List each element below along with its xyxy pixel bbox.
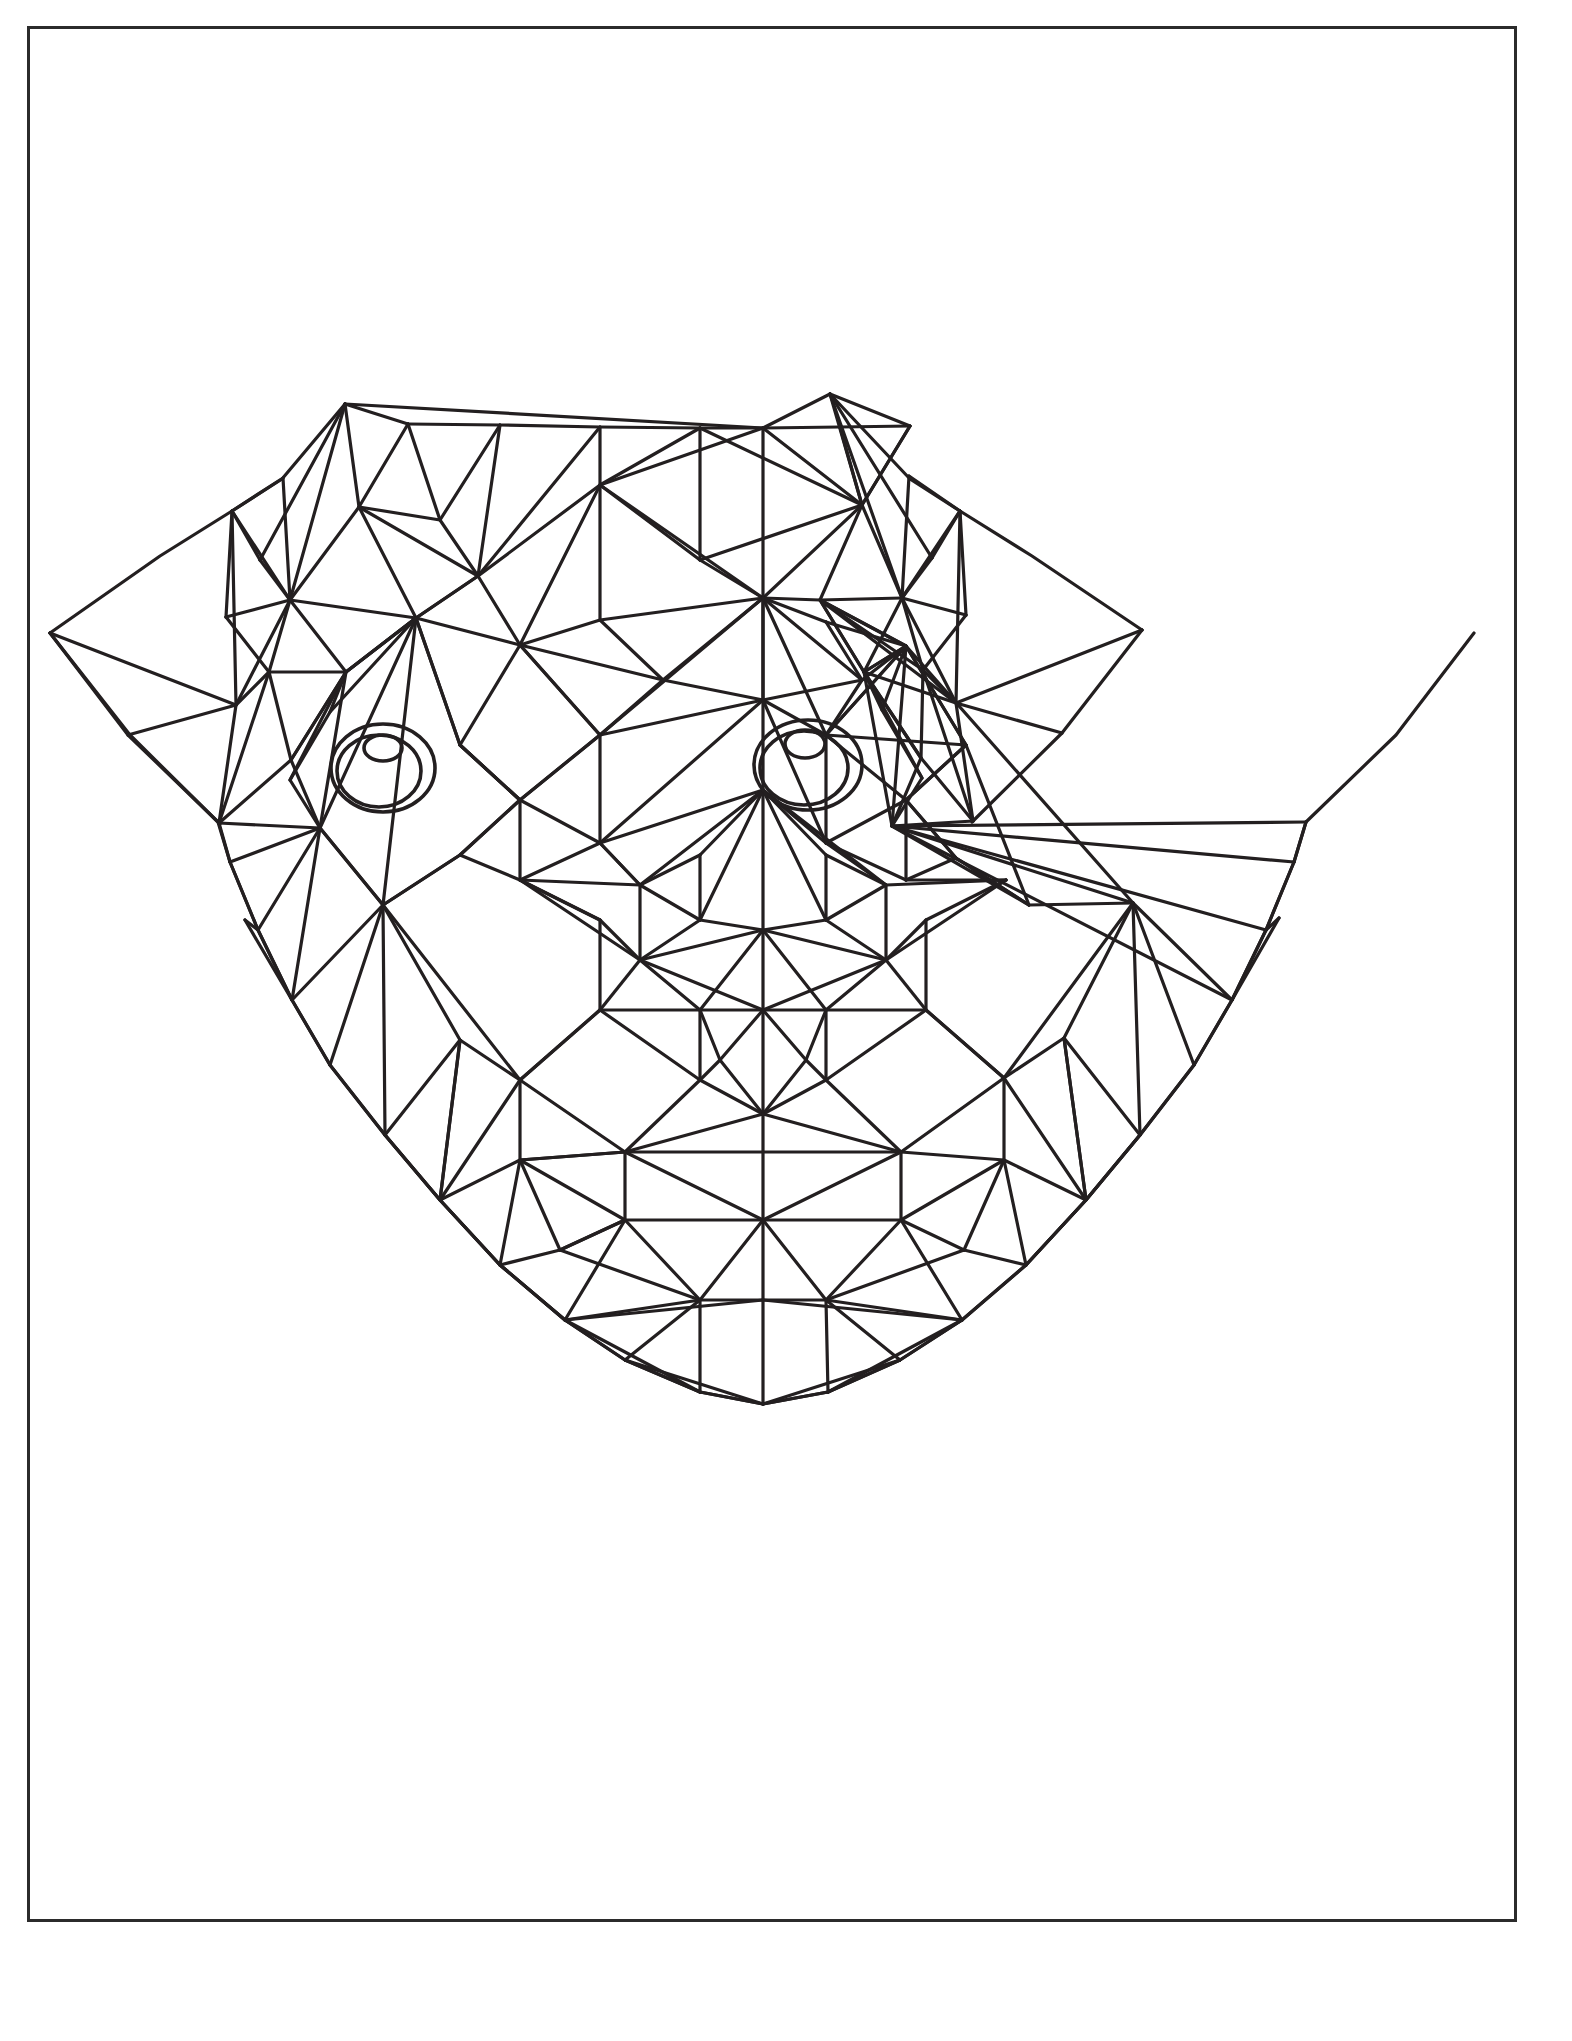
crown-r4 <box>862 505 902 598</box>
nose7 <box>826 960 886 1010</box>
mid3 <box>520 735 600 800</box>
right-ear-lower-edge <box>972 630 1142 822</box>
right-eye-socket-l5 <box>906 858 956 880</box>
left-ear-outline <box>50 404 345 633</box>
cheek-r13 <box>1294 822 1306 862</box>
muz31 <box>600 920 640 960</box>
crown-l8 <box>440 520 478 576</box>
jowl18 <box>625 1152 763 1220</box>
left-ear-fold-13 <box>283 478 290 600</box>
brow-r13 <box>763 680 862 700</box>
jowl25 <box>901 1160 1004 1220</box>
chin24 <box>565 1320 700 1392</box>
cheek-l31 <box>245 920 292 1000</box>
brow-l13 <box>600 598 763 735</box>
crown-l3 <box>345 404 359 507</box>
jowl24 <box>520 1160 625 1220</box>
jowl33 <box>1004 1160 1026 1265</box>
chin16 <box>763 1300 962 1320</box>
crown-r18 <box>820 598 902 600</box>
right-ear-fold-8 <box>960 511 966 615</box>
left-ear-fold-2 <box>232 511 236 705</box>
crown-l18 <box>290 600 416 618</box>
crown-l11 <box>478 485 600 576</box>
chin2 <box>700 1220 763 1300</box>
muz15 <box>826 885 886 920</box>
mid9 <box>600 700 763 843</box>
brow-l16 <box>600 700 763 735</box>
lower-l4 <box>500 1265 565 1320</box>
chin15 <box>565 1300 763 1320</box>
lower-l2 <box>385 1135 440 1200</box>
cheek-l11 <box>230 828 320 862</box>
muz18 <box>600 843 640 885</box>
right-ear-outline <box>830 394 1142 630</box>
mid7 <box>520 800 600 843</box>
cheek-r32 <box>1232 918 1279 1000</box>
muz28 <box>886 880 1006 960</box>
left-ear-fold-8 <box>226 511 232 617</box>
crown-l2 <box>359 424 408 507</box>
chin10 <box>826 1250 964 1300</box>
nose16 <box>763 1060 806 1114</box>
nose33 <box>520 880 600 920</box>
muz3 <box>640 855 700 885</box>
muz25 <box>520 880 640 885</box>
nose4 <box>640 960 700 1010</box>
muz33 <box>886 920 926 960</box>
jowl13 <box>901 1152 1004 1160</box>
jowl8 <box>926 1010 1004 1078</box>
right-ear-fold-17 <box>902 558 932 598</box>
lower-r2 <box>1086 1135 1140 1200</box>
chin30 <box>625 1360 700 1392</box>
pug-outline-group <box>50 394 1474 1404</box>
cheek-r24 <box>1133 903 1140 1135</box>
jowl7 <box>901 1078 1004 1152</box>
cheek-l22 <box>330 1065 385 1135</box>
muz12 <box>826 855 886 885</box>
left-ear-lower-edge <box>50 633 220 824</box>
crown-r16 <box>820 505 862 600</box>
cheek-r22 <box>1133 903 1194 1065</box>
nose17 <box>600 960 640 1010</box>
jowl1 <box>520 1010 600 1080</box>
coloring-page: Geometric Pug Dog Face Coloring Page <box>0 0 1572 2041</box>
nose10 <box>700 1010 720 1060</box>
chin33 <box>826 1300 828 1392</box>
brow-l15 <box>663 680 763 700</box>
muz9 <box>700 920 763 930</box>
crown-r1 <box>830 394 910 426</box>
cheek-r21 <box>1194 1000 1232 1065</box>
cheek-l21 <box>330 905 383 1065</box>
cheek-l30 <box>383 905 520 1080</box>
right-eye-socket-l8 <box>1029 903 1133 905</box>
nose15 <box>720 1060 763 1114</box>
left-ear-fold-15 <box>260 404 345 560</box>
cheek-l25 <box>383 905 460 1040</box>
muz32 <box>926 880 1006 920</box>
left-ear-fold-12 <box>290 404 345 600</box>
lower-r1 <box>1026 1200 1086 1265</box>
nose11 <box>720 1010 763 1060</box>
cheek-r14 <box>1266 862 1294 930</box>
left-eye-socket-l7 <box>520 843 600 880</box>
left-eye-inner-ring <box>337 735 421 807</box>
jowl32 <box>500 1160 520 1265</box>
left-ear-fold-17 <box>260 560 290 600</box>
left-eye-socket-l3 <box>460 800 520 855</box>
nose27 <box>700 1060 720 1080</box>
nose31 <box>700 1080 763 1114</box>
crown-l14 <box>600 428 763 485</box>
cheek-l9 <box>320 618 416 828</box>
jowl2 <box>520 1080 625 1152</box>
left-ear-fold-9 <box>226 617 269 672</box>
right-ear-fold-3 <box>956 703 1062 733</box>
jowl19 <box>763 1152 901 1220</box>
cheek-l3 <box>269 672 291 760</box>
cheek-l23 <box>383 905 385 1135</box>
nose13 <box>763 1010 806 1060</box>
nose2 <box>640 960 763 1010</box>
lower-l1 <box>440 1200 500 1265</box>
crown-l4 <box>290 507 359 600</box>
right-ear-fold-14 <box>909 476 960 511</box>
